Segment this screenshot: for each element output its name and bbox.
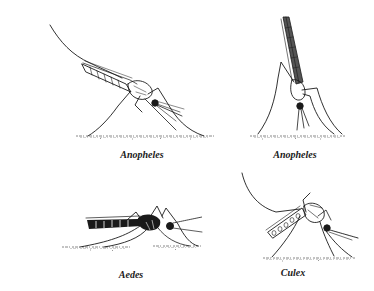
anopheles-vertical-drawing	[250, 17, 345, 140]
caption-anopheles-angled: Anopheles	[120, 150, 163, 160]
anopheles-angled-drawing	[50, 25, 215, 140]
caption-culex: Culex	[281, 268, 305, 278]
head	[324, 225, 330, 231]
culex-drawing	[242, 173, 358, 262]
abdomen	[82, 61, 137, 92]
caption-anopheles-vertical: Anopheles	[273, 150, 316, 160]
ground-line	[263, 258, 355, 262]
abdomen	[281, 17, 303, 84]
illustration-canvas	[0, 0, 374, 291]
ground-line	[76, 136, 215, 140]
head	[167, 223, 174, 230]
mosquito-resting-postures-figure: Anopheles Anopheles Aedes Culex	[0, 0, 374, 291]
ground-line	[250, 136, 345, 140]
abdomen	[86, 216, 142, 229]
aedes-drawing	[62, 206, 202, 251]
caption-aedes: Aedes	[119, 270, 143, 280]
